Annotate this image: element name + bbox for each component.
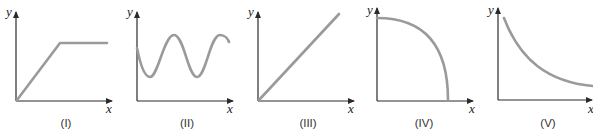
- curve-straight-line: [259, 14, 339, 100]
- x-axis-label: x: [347, 101, 354, 116]
- y-axis-label: y: [486, 2, 494, 17]
- panel-iv: y x (IV): [365, 2, 475, 129]
- x-axis-label: x: [226, 101, 233, 116]
- curve-ramp-plateau: [17, 43, 107, 100]
- curve-quarter-circle: [377, 18, 448, 100]
- y-axis-label: y: [4, 4, 12, 19]
- panel-caption: (I): [61, 117, 72, 129]
- panel-caption: (IV): [415, 117, 434, 129]
- panel-caption: (II): [180, 117, 194, 129]
- x-axis-label: x: [587, 101, 593, 116]
- panel-caption: (V): [540, 117, 556, 129]
- y-axis-label: y: [125, 4, 133, 19]
- panel-caption: (III): [299, 117, 316, 129]
- graphs-figure: y x (I) y x (II) y x (III) y x (IV) y x …: [0, 0, 593, 136]
- curve-sine-wave: [137, 35, 229, 77]
- y-axis-label: y: [246, 4, 254, 19]
- y-axis-label: y: [365, 2, 373, 17]
- panel-iii: y x (III): [246, 4, 354, 129]
- x-axis-label: x: [468, 101, 475, 116]
- x-axis-label: x: [105, 101, 112, 116]
- panel-i: y x (I): [4, 4, 112, 129]
- curve-decay: [504, 18, 593, 86]
- panel-ii: y x (II): [125, 4, 233, 129]
- panel-v: y x (V): [486, 2, 593, 129]
